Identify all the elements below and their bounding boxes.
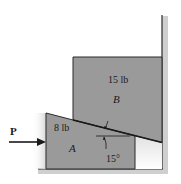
angle-label: 15° [106,153,120,164]
wedge-diagram: P 8 lb A 15 lb B 15° [0,0,181,184]
block-a-name: A [68,142,76,154]
block-a-weight: 8 lb [54,122,69,133]
block-b-name: B [113,93,120,105]
force-label: P [10,125,17,137]
block-b-weight: 15 lb [108,74,128,85]
wall [162,15,168,171]
floor [38,169,168,174]
